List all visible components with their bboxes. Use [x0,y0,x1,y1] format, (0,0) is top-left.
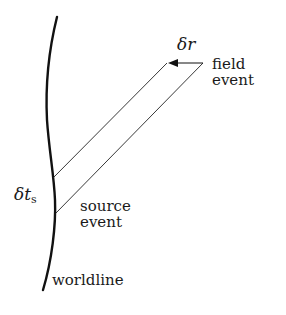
worldline-label: worldline [52,272,124,288]
source-event-line2: event [80,214,131,230]
spacetime-diagram: δr field event δts source event worldlin… [0,0,286,315]
delta-t-subscript: s [31,193,37,206]
field-event-line1: field [212,56,254,72]
source-event-label: source event [80,198,131,230]
delta-r-label: δr [177,36,195,52]
delta-r-symbol: δr [177,34,195,54]
delta-ts-label: δts [14,186,37,208]
upper-null-line [53,63,167,178]
delta-r-arrowhead-icon [168,59,178,67]
lower-null-line [56,63,203,213]
diagram-svg [0,0,286,315]
source-event-line1: source [80,198,131,214]
field-event-line2: event [212,72,254,88]
worldline-text: worldline [52,271,124,289]
delta-t-symbol: δt [14,184,31,204]
worldline-curve [43,17,57,290]
field-event-label: field event [212,56,254,88]
